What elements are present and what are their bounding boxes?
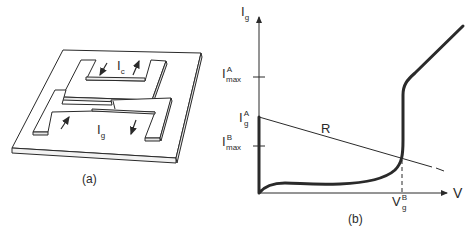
caption-a: (a) — [82, 172, 97, 186]
ig-a-label: IAg — [239, 109, 250, 128]
load-line-label: R — [321, 121, 330, 136]
load-line-dashed-end — [436, 168, 444, 171]
x-axis-label: V — [453, 185, 463, 201]
iv-curve — [259, 26, 463, 193]
load-line — [259, 117, 432, 167]
caption-b: (b) — [348, 212, 363, 226]
device-sketch — [12, 50, 202, 163]
imax-a-label: IAmax — [222, 65, 241, 84]
y-axis-label: Ig — [241, 4, 249, 22]
imax-b-label: IBmax — [222, 133, 241, 152]
iv-plot — [253, 17, 463, 194]
figure-canvas: Ic Ig (a) Ig V IAmax IAg IBmax VBg R (b) — [0, 0, 473, 234]
vg-b-label: VBg — [392, 193, 407, 212]
